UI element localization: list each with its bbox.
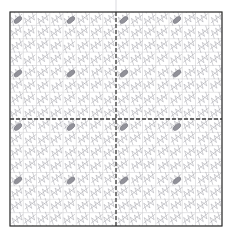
- figure-canvas: [0, 0, 233, 231]
- plot-svg: [0, 0, 233, 231]
